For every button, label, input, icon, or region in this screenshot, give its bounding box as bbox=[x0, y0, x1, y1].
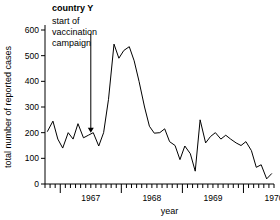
x-tick-label-2: 1969 bbox=[203, 193, 222, 203]
x-tick-label-0: 1967 bbox=[81, 193, 100, 203]
y-tick-label-0: 0 bbox=[34, 179, 39, 189]
chart-container: 01002003004005006001967196819691970yeart… bbox=[0, 0, 280, 220]
x-tick-label-3: 1970 bbox=[265, 193, 280, 203]
y-tick-label-1: 100 bbox=[25, 153, 39, 163]
y-tick-label-2: 200 bbox=[25, 128, 39, 138]
x-axis-title: year bbox=[161, 206, 179, 216]
annotation-line-2: campaign bbox=[52, 38, 91, 48]
x-tick-label-1: 1968 bbox=[142, 193, 161, 203]
y-tick-label-3: 300 bbox=[25, 102, 39, 112]
annotation-line-1: vaccination bbox=[52, 27, 97, 37]
annotation-arrow-head bbox=[88, 128, 94, 133]
annotation-line-0: start of bbox=[52, 16, 80, 26]
y-tick-label-6: 600 bbox=[25, 25, 39, 35]
chart-title: country Y bbox=[52, 3, 93, 13]
y-tick-label-4: 400 bbox=[25, 76, 39, 86]
line-chart: 01002003004005006001967196819691970yeart… bbox=[0, 0, 280, 220]
y-tick-label-5: 500 bbox=[25, 51, 39, 61]
series-line-0 bbox=[47, 44, 271, 179]
y-axis-title: total number of reported cases bbox=[3, 45, 13, 168]
